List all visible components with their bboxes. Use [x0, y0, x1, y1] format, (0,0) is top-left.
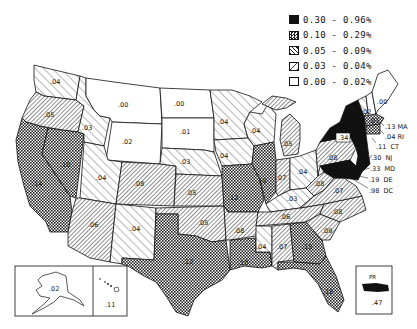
label-id: .03 [82, 124, 92, 132]
callout-dc: .98 DC [369, 187, 393, 195]
state-az [68, 198, 116, 262]
label-mt: .00 [118, 101, 128, 109]
label-hi: .11 [105, 301, 115, 309]
legend-row-checker: 0.10 - 0.29% [289, 28, 372, 44]
state-mi [280, 114, 300, 156]
label-nv: .10 [60, 161, 70, 169]
label-oh: .04 [297, 168, 307, 176]
state-nd [160, 88, 214, 118]
callout-ma: .13 MA [385, 123, 407, 131]
label-ms: .04 [256, 243, 266, 251]
label-nm: .04 [130, 225, 140, 233]
label-sd: .01 [180, 128, 190, 136]
label-wv: .08 [314, 180, 324, 188]
callout-de: .19 DE [369, 176, 393, 184]
label-mn: .04 [218, 118, 228, 126]
label-pa: .08 [327, 154, 337, 162]
label-ne: .03 [180, 158, 190, 166]
label-wi: .04 [250, 127, 260, 135]
legend-label: 0.03 - 0.04% [303, 61, 372, 71]
label-vt: .02 [361, 108, 371, 116]
label-ga: .15 [302, 243, 312, 251]
label-la: .10 [238, 259, 248, 267]
state-fl [278, 256, 344, 312]
label-me: .00 [377, 98, 387, 106]
label-nd: .00 [174, 100, 184, 108]
label-co: .08 [134, 180, 144, 188]
legend-row-blank: 0.00 - 0.02% [289, 74, 372, 90]
callout-md: .33 MD [370, 165, 395, 173]
label-pr: .47 [372, 299, 382, 307]
label-il: .10 [256, 177, 266, 185]
label-ia: .04 [218, 152, 228, 160]
label-mo: .12 [228, 194, 238, 202]
label-al: .07 [277, 243, 287, 251]
label-ny: .34 [338, 134, 348, 142]
label-nh: .01 [369, 117, 379, 125]
label-wy: .02 [122, 138, 132, 146]
legend-label: 0.05 - 0.09% [303, 46, 372, 56]
legend-label: 0.10 - 0.29% [303, 30, 372, 40]
legend-label: 0.00 - 0.02% [303, 77, 372, 87]
state-nm [110, 204, 156, 264]
label-tx: .12 [183, 258, 193, 266]
label-ar: .08 [234, 227, 244, 235]
state-me [372, 70, 398, 114]
legend: 0.30 - 0.96% 0.10 - 0.29% 0.05 - 0.09% 0… [289, 12, 372, 90]
label-in: .07 [276, 174, 286, 182]
legend-row-sparse-hatch: 0.03 - 0.04% [289, 59, 372, 75]
label-ut: .04 [96, 174, 106, 182]
legend-swatch-solid [289, 15, 299, 24]
label-ks: .05 [186, 189, 196, 197]
state-ct-ri [366, 124, 380, 134]
label-fl: .18 [323, 288, 333, 296]
callout-ct: .11 CT [376, 143, 399, 151]
state-ks [174, 174, 224, 206]
legend-swatch-checker [289, 31, 299, 40]
label-ak: .02 [49, 285, 59, 293]
label-va: .07 [333, 187, 343, 195]
state-co [116, 162, 176, 206]
puerto-rico-inset: PR .47 [356, 266, 392, 314]
label-or: .05 [44, 111, 54, 119]
alaska-hawaii-inset: .02 .11 [15, 266, 127, 316]
callout-nj: .30 NJ [371, 154, 392, 162]
legend-label: 0.30 - 0.96% [303, 15, 372, 25]
label-tn: .06 [280, 213, 290, 221]
callout-ri: .04 RI [385, 133, 404, 141]
label-ca: .14 [32, 180, 42, 188]
label-ky: .03 [287, 195, 297, 203]
legend-swatch-sparse-hatch [289, 62, 299, 71]
pr-title: PR [369, 274, 376, 280]
legend-swatch-blank [289, 77, 299, 86]
label-mi: .05 [282, 140, 292, 148]
label-wa: .04 [50, 78, 60, 86]
label-nc: .08 [332, 208, 342, 216]
state-wy [106, 122, 162, 164]
legend-row-solid: 0.30 - 0.96% [289, 12, 372, 28]
label-ok: .05 [198, 219, 208, 227]
label-az: .06 [88, 221, 98, 229]
legend-row-dense-hatch: 0.05 - 0.09% [289, 43, 372, 59]
legend-swatch-dense-hatch [289, 46, 299, 55]
label-sc: .09 [322, 227, 332, 235]
